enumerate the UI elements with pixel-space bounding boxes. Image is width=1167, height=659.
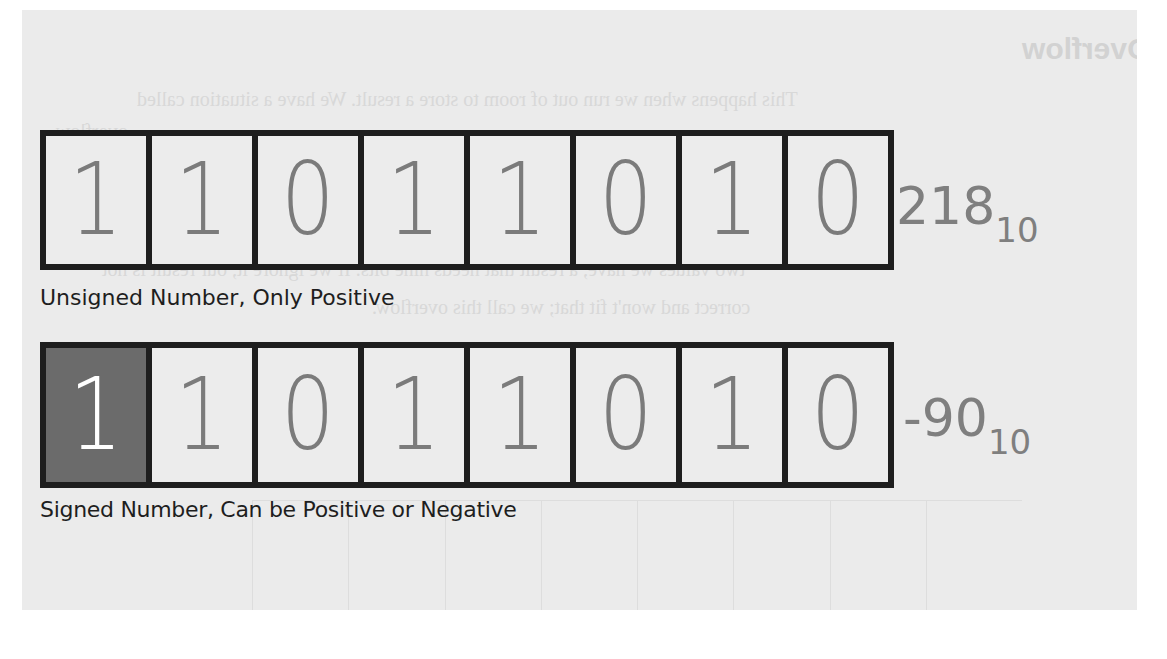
value-base-subscript: 10 bbox=[995, 210, 1038, 250]
bit-cell-1: 1 bbox=[676, 136, 782, 264]
signed-caption: Signed Number, Can be Positive or Negati… bbox=[40, 497, 517, 522]
bit-cell-7: 1 bbox=[46, 136, 146, 264]
unsigned-caption: Unsigned Number, Only Positive bbox=[40, 285, 395, 310]
unsigned-decimal-value: 21810 bbox=[896, 180, 1039, 232]
value-base-subscript: 10 bbox=[988, 422, 1031, 462]
signed-decimal-value: -9010 bbox=[903, 392, 1031, 444]
unsigned-register: 1 1 0 1 1 0 1 0 bbox=[40, 130, 894, 270]
bit-cell-4: 1 bbox=[358, 348, 464, 482]
bleed-through-heading: Overflow bbox=[1022, 32, 1137, 66]
value-number: -90 bbox=[903, 388, 988, 448]
bit-cell-0: 0 bbox=[782, 348, 888, 482]
bleed-through-line: This happens when we run out of room to … bbox=[137, 88, 798, 111]
bleed-through-line: correct and won't fit that; we call this… bbox=[372, 296, 750, 319]
bit-cell-6: 1 bbox=[146, 136, 252, 264]
bit-cell-3: 1 bbox=[464, 348, 570, 482]
bit-cell-5: 0 bbox=[252, 348, 358, 482]
bit-cell-2: 0 bbox=[570, 136, 676, 264]
bit-cell-5: 0 bbox=[252, 136, 358, 264]
bit-cell-1: 1 bbox=[676, 348, 782, 482]
bit-cell-0: 0 bbox=[782, 136, 888, 264]
bit-cell-6: 1 bbox=[146, 348, 252, 482]
value-number: 218 bbox=[896, 176, 995, 236]
bit-cell-2: 0 bbox=[570, 348, 676, 482]
bit-cell-4: 1 bbox=[358, 136, 464, 264]
bit-cell-3: 1 bbox=[464, 136, 570, 264]
signed-register: 1 1 0 1 1 0 1 0 bbox=[40, 342, 894, 488]
sign-bit-cell: 1 bbox=[46, 348, 146, 482]
